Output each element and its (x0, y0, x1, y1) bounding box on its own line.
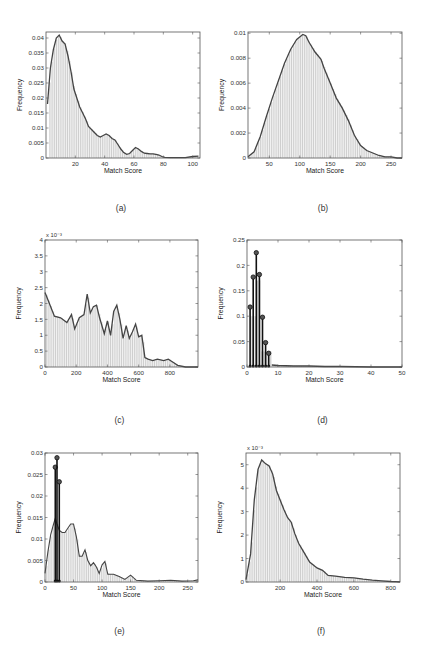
panel-caption: (e) (114, 626, 125, 636)
y-tick-label: 5 (241, 461, 245, 468)
y-tick-label: 0.03 (31, 449, 44, 456)
x-tick-label: 600 (349, 584, 360, 591)
y-tick-label: 0.5 (34, 347, 43, 354)
x-tick-label: 10 (275, 369, 282, 376)
x-tick-label: 100 (188, 160, 199, 167)
x-tick-label: 40 (101, 160, 108, 167)
y-tick-label: 2 (241, 531, 245, 538)
y-tick-label: 0.25 (233, 236, 246, 243)
stem-marker (55, 456, 59, 460)
y-tick-label: 0.004 (231, 104, 247, 111)
x-tick-label: 200 (71, 369, 82, 376)
chart-panel-a: 00.0050.010.0150.020.0250.030.0350.04204… (16, 32, 200, 213)
panel-caption: (a) (116, 203, 127, 213)
x-tick-label: 150 (125, 584, 136, 591)
x-tick-label: 150 (325, 160, 336, 167)
chart-canvas: 00.0050.010.0150.020.0250.030.0350.04204… (0, 0, 424, 648)
x-tick-label: 200 (154, 584, 165, 591)
histogram-bars (249, 35, 398, 158)
y-tick-label: 1.5 (34, 316, 43, 323)
y-tick-label: 4 (241, 484, 245, 491)
y-tick-label: 0.02 (31, 492, 44, 499)
x-tick-label: 400 (102, 369, 113, 376)
y-tick-label: 0.01 (234, 29, 247, 36)
x-tick-label: 0 (245, 369, 249, 376)
y-tick-label: 0.015 (29, 109, 45, 116)
x-tick-label: 30 (337, 369, 344, 376)
y-tick-label: 4 (40, 236, 44, 243)
y-tick-label: 1 (40, 331, 44, 338)
y-tick-label: 0.002 (231, 129, 247, 136)
histogram-bars (46, 520, 197, 582)
stem-marker (251, 275, 255, 279)
x-tick-label: 600 (134, 369, 145, 376)
stem-marker (260, 315, 264, 319)
x-tick-label: 20 (72, 160, 79, 167)
x-tick-label: 200 (355, 160, 366, 167)
x-tick-label: 0 (43, 369, 47, 376)
stem-marker (257, 272, 261, 276)
y-axis-label: Frequency (15, 501, 23, 534)
y-tick-label: 0.15 (233, 287, 246, 294)
x-tick-label: 80 (160, 160, 167, 167)
x-tick-label: 40 (368, 369, 375, 376)
x-tick-label: 800 (165, 369, 176, 376)
y-tick-label: 0.008 (231, 54, 247, 61)
y-tick-label: 0.006 (231, 79, 247, 86)
y-tick-label: 0.01 (32, 124, 45, 131)
y-exponent-label: x 10⁻³ (247, 445, 263, 451)
y-tick-label: 0.005 (29, 139, 45, 146)
x-tick-label: 100 (97, 584, 108, 591)
x-axis-label: Match Score (104, 167, 142, 174)
stem-marker (267, 351, 271, 355)
y-tick-label: 0.02 (32, 94, 45, 101)
stem-marker (57, 480, 61, 484)
y-axis-label: Frequency (218, 78, 226, 111)
y-tick-label: 0.005 (28, 557, 44, 564)
stem-marker (248, 305, 252, 309)
x-axis-label: Match Score (102, 591, 140, 598)
y-tick-label: 0 (41, 154, 45, 161)
panel-caption: (c) (115, 415, 125, 425)
y-tick-label: 0.03 (32, 64, 45, 71)
histogram-bars (247, 461, 400, 582)
chart-panel-d: 00.050.10.150.20.2501020304050Match Scor… (217, 236, 406, 425)
y-tick-label: 0.035 (29, 49, 45, 56)
panel-caption: (b) (318, 203, 329, 213)
chart-panel-c: 00.511.522.533.540200400600800x 10⁻³Matc… (15, 232, 198, 425)
y-tick-label: 2 (40, 300, 44, 307)
x-axis-label: Match Score (305, 376, 343, 383)
x-tick-label: 400 (312, 584, 323, 591)
y-tick-label: 0 (241, 578, 245, 585)
x-axis-label: Match Score (304, 591, 342, 598)
chart-panel-f: 012345200400600800x 10⁻³Match ScoreFrequ… (216, 445, 400, 636)
y-tick-label: 0.05 (233, 338, 246, 345)
stem-marker (263, 340, 267, 344)
x-tick-label: 250 (183, 584, 194, 591)
y-tick-label: 0.025 (28, 471, 44, 478)
x-tick-label: 250 (386, 160, 397, 167)
y-tick-label: 0.2 (236, 262, 245, 269)
y-exponent-label: x 10⁻³ (46, 232, 62, 238)
y-tick-label: 0.025 (29, 79, 45, 86)
y-tick-label: 3.5 (34, 252, 43, 259)
y-tick-label: 0.015 (28, 514, 44, 521)
stem-marker (254, 251, 258, 255)
chart-panel-b: 00.0020.0040.0060.0080.0150100150200250M… (218, 29, 402, 213)
x-tick-label: 0 (43, 584, 47, 591)
y-axis-label: Frequency (15, 287, 23, 320)
x-tick-label: 50 (266, 160, 273, 167)
x-tick-label: 50 (70, 584, 77, 591)
y-axis-label: Frequency (217, 287, 225, 320)
histogram-bars (49, 36, 198, 158)
y-tick-label: 1 (241, 555, 245, 562)
x-axis-label: Match Score (102, 376, 140, 383)
x-axis-label: Match Score (306, 167, 344, 174)
x-tick-label: 50 (399, 369, 406, 376)
y-tick-label: 2.5 (34, 284, 43, 291)
y-tick-label: 0.1 (236, 312, 245, 319)
y-tick-label: 0.04 (32, 34, 45, 41)
x-tick-label: 800 (386, 584, 397, 591)
x-tick-label: 100 (295, 160, 306, 167)
chart-panel-e: 00.0050.010.0150.020.0250.03050100150200… (15, 449, 198, 636)
